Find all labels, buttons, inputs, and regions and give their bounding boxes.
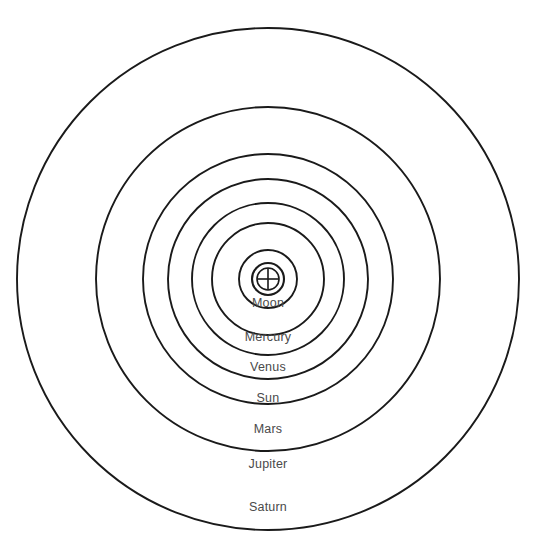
- earth-symbol: [252, 263, 284, 295]
- orbit-label-moon: Moon: [252, 296, 284, 310]
- orbit-label-mercury: Mercury: [245, 330, 292, 344]
- orbit-label-mars: Mars: [254, 422, 283, 436]
- orbit-label-saturn: Saturn: [249, 500, 287, 514]
- orbit-label-venus: Venus: [250, 360, 286, 374]
- orbit-label-sun: Sun: [257, 391, 280, 405]
- geocentric-diagram: MoonMercuryVenusSunMarsJupiterSaturn: [0, 0, 534, 555]
- orbit-label-jupiter: Jupiter: [249, 457, 288, 471]
- orbit-canvas: [0, 0, 534, 555]
